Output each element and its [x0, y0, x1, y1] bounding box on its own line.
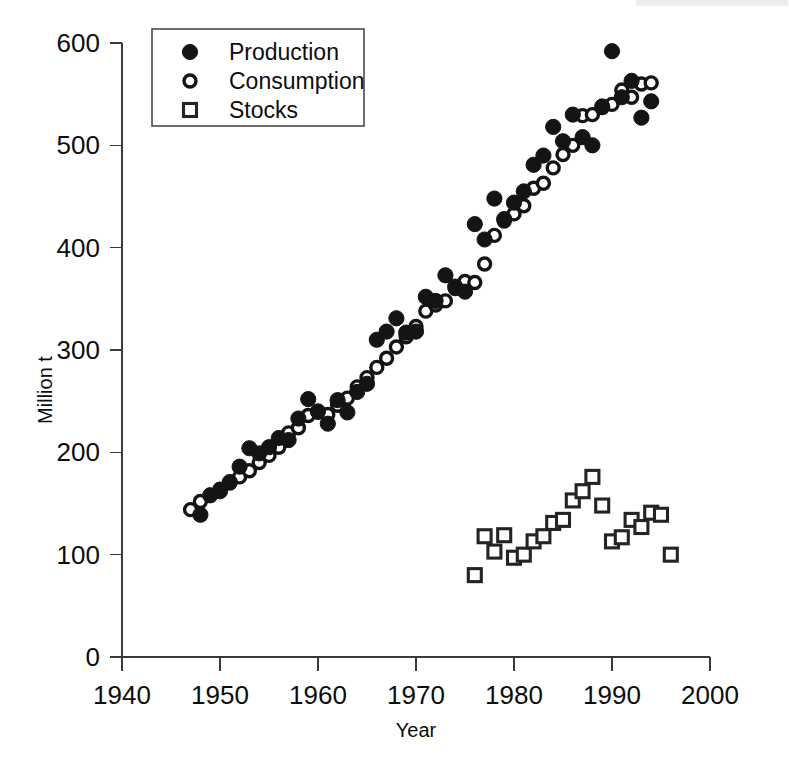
x-tick-label-1970: 1970	[387, 680, 445, 710]
point-production	[487, 191, 502, 206]
point-stocks	[586, 470, 599, 483]
point-production	[467, 217, 482, 232]
point-production	[389, 311, 404, 326]
point-production	[379, 324, 394, 339]
legend-label-consumption: Consumption	[229, 68, 365, 94]
point-production	[359, 376, 374, 391]
point-stocks	[478, 530, 491, 543]
scatter-chart: 0100200300400500600 Million t 1940195019…	[0, 0, 789, 781]
y-tick-label-300: 300	[57, 335, 100, 365]
point-production	[310, 404, 325, 419]
y-tick-label-100: 100	[57, 540, 100, 570]
point-stocks	[557, 513, 570, 526]
point-consumption	[537, 177, 549, 189]
y-tick-label-200: 200	[57, 437, 100, 467]
point-production	[497, 211, 512, 226]
point-production	[624, 73, 639, 88]
point-stocks	[635, 521, 648, 534]
legend-label-stocks: Stocks	[229, 97, 298, 123]
point-production	[330, 393, 345, 408]
point-production	[634, 110, 649, 125]
chart-legend: ProductionConsumptionStocks	[152, 29, 365, 126]
point-production	[585, 138, 600, 153]
series-stocks	[468, 470, 677, 581]
open-square-icon	[184, 104, 197, 117]
x-tick-label-1940: 1940	[93, 680, 151, 710]
x-axis-tick-labels: 1940195019601970198019902000	[93, 680, 739, 710]
point-stocks	[596, 499, 609, 512]
point-production	[595, 99, 610, 114]
point-production	[644, 94, 659, 109]
x-tick-label-2000: 2000	[681, 680, 739, 710]
point-production	[536, 148, 551, 163]
point-production	[291, 411, 306, 426]
point-production	[555, 134, 570, 149]
chart-page: 0100200300400500600 Million t 1940195019…	[0, 0, 789, 781]
point-production	[340, 405, 355, 420]
point-production	[320, 416, 335, 431]
x-axis: 1940195019601970198019902000 Year	[93, 657, 739, 741]
x-tick-label-1950: 1950	[191, 680, 249, 710]
y-tick-label-500: 500	[57, 130, 100, 160]
point-production	[457, 284, 472, 299]
point-production	[565, 107, 580, 122]
point-stocks	[517, 548, 530, 561]
point-stocks	[488, 545, 501, 558]
point-stocks	[576, 485, 589, 498]
y-tick-label-400: 400	[57, 233, 100, 263]
y-axis: 0100200300400500600 Million t	[34, 28, 122, 672]
point-production	[614, 90, 629, 105]
point-stocks	[664, 548, 677, 561]
open-circle-icon	[184, 75, 196, 87]
y-tick-label-600: 600	[57, 28, 100, 58]
y-axis-ticks	[110, 43, 122, 657]
point-stocks	[655, 508, 668, 521]
point-production	[604, 44, 619, 59]
point-production	[222, 474, 237, 489]
point-production	[477, 232, 492, 247]
point-production	[516, 184, 531, 199]
y-axis-tick-labels: 0100200300400500600	[57, 28, 100, 672]
point-stocks	[498, 529, 511, 542]
filled-circle-icon	[182, 44, 197, 59]
point-stocks	[468, 569, 481, 582]
point-consumption	[645, 77, 657, 89]
point-production	[281, 432, 296, 447]
point-production	[546, 119, 561, 134]
x-tick-label-1980: 1980	[485, 680, 543, 710]
y-axis-title: Million t	[34, 356, 56, 424]
scan-edge-artifact	[636, 0, 788, 6]
legend-label-production: Production	[229, 39, 339, 65]
point-consumption	[390, 341, 402, 353]
point-consumption	[547, 162, 559, 174]
x-tick-label-1990: 1990	[583, 680, 641, 710]
point-consumption	[381, 352, 393, 364]
point-consumption	[479, 258, 491, 270]
x-axis-ticks	[122, 657, 710, 671]
y-tick-label-0: 0	[86, 642, 100, 672]
point-production	[428, 293, 443, 308]
point-stocks	[615, 531, 628, 544]
point-production	[193, 507, 208, 522]
point-production	[408, 324, 423, 339]
point-production	[232, 459, 247, 474]
point-stocks	[537, 530, 550, 543]
point-production	[301, 392, 316, 407]
x-tick-label-1960: 1960	[289, 680, 347, 710]
x-axis-title: Year	[396, 719, 437, 741]
